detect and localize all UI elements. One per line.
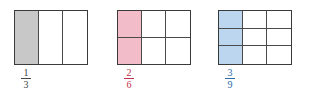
numerator: 3 xyxy=(223,68,237,77)
grid-thirds xyxy=(14,10,88,65)
shaded-cell xyxy=(15,11,39,64)
empty-cell xyxy=(142,38,166,65)
shaded-cell xyxy=(118,11,142,38)
denominator: 6 xyxy=(122,80,136,89)
empty-cell xyxy=(243,46,267,64)
empty-cell xyxy=(142,11,166,38)
empty-cell xyxy=(267,11,291,29)
grid-sixths xyxy=(117,10,191,65)
numerator: 1 xyxy=(19,68,33,77)
fraction-label-3-9: 3 9 xyxy=(223,68,237,89)
shaded-cell xyxy=(219,29,243,47)
shaded-cell xyxy=(219,11,243,29)
empty-cell xyxy=(267,29,291,47)
shaded-cell xyxy=(219,46,243,64)
empty-cell xyxy=(166,38,190,65)
fraction-label-2-6: 2 6 xyxy=(122,68,136,89)
denominator: 3 xyxy=(19,80,33,89)
empty-cell xyxy=(243,29,267,47)
empty-cell xyxy=(267,46,291,64)
empty-cell xyxy=(243,11,267,29)
denominator: 9 xyxy=(223,80,237,89)
empty-cell xyxy=(63,11,87,64)
numerator: 2 xyxy=(122,68,136,77)
empty-cell xyxy=(39,11,63,64)
shaded-cell xyxy=(118,38,142,65)
fraction-label-1-3: 1 3 xyxy=(19,68,33,89)
empty-cell xyxy=(166,11,190,38)
grid-ninths xyxy=(218,10,292,65)
